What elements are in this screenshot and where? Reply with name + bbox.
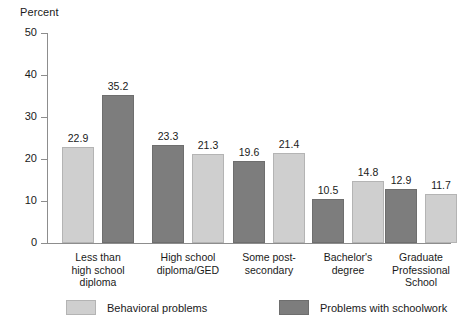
legend-item: Problems with schoolwork (279, 300, 447, 315)
legend-label: Behavioral problems (107, 302, 207, 314)
bar-chart: Percent 01020304050 22.935.223.321.319.6… (0, 0, 465, 328)
y-axis-tick-mark (41, 117, 47, 118)
y-axis-tick-label: 30 (11, 110, 37, 123)
bar-value-label: 10.5 (308, 184, 348, 196)
bar-value-label: 11.7 (421, 179, 461, 191)
bar (425, 194, 457, 243)
bar (273, 153, 305, 243)
bar (102, 95, 134, 243)
bar (352, 181, 384, 243)
y-axis-tick-mark (41, 159, 47, 160)
bar-value-label: 21.3 (188, 139, 228, 151)
y-axis-tick-label: 50 (11, 26, 37, 39)
y-axis-tick-label: 0 (11, 236, 37, 249)
x-axis-category-label: Graduate Professional School (376, 251, 465, 289)
bar-value-label: 23.3 (148, 130, 188, 142)
bar (385, 189, 417, 243)
bar-value-label: 12.9 (381, 174, 421, 186)
legend-swatch (66, 300, 96, 315)
y-axis-line (47, 33, 48, 244)
bar-value-label: 22.9 (58, 132, 98, 144)
bar (152, 145, 184, 243)
bar (192, 154, 224, 243)
bar-value-label: 35.2 (98, 80, 138, 92)
y-axis-tick-mark (41, 75, 47, 76)
y-axis-tick-label: 40 (11, 68, 37, 81)
chart-legend: Behavioral problemsProblems with schoolw… (0, 300, 465, 322)
x-axis-category-label: Some post- secondary (224, 251, 314, 276)
bar (62, 147, 94, 243)
legend-label: Problems with schoolwork (320, 302, 447, 314)
bar (233, 161, 265, 243)
x-axis-category-label: High school diploma/GED (143, 251, 233, 276)
y-axis-tick-label: 20 (11, 152, 37, 165)
legend-item: Behavioral problems (66, 300, 207, 315)
legend-swatch (279, 300, 309, 315)
bar (312, 199, 344, 243)
y-axis-title: Percent (20, 6, 59, 18)
bar-value-label: 21.4 (269, 138, 309, 150)
x-axis-category-label: Less than high school diploma (53, 251, 143, 289)
y-axis-tick-label: 10 (11, 194, 37, 207)
x-axis-line (47, 243, 451, 244)
y-axis-tick-mark (41, 33, 47, 34)
y-axis-tick-mark (41, 243, 47, 244)
y-axis-tick-mark (41, 201, 47, 202)
bar-value-label: 19.6 (229, 146, 269, 158)
